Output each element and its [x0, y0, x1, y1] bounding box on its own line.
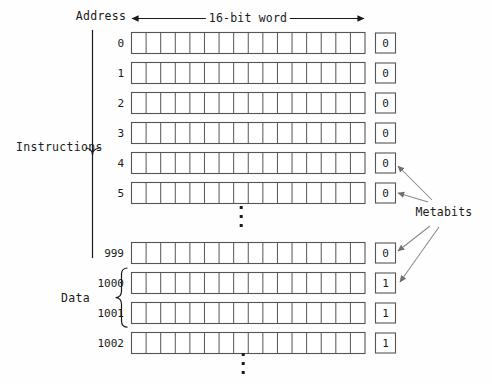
ellipsis-dot [242, 362, 245, 365]
instructions-group-label: Instructions [16, 142, 103, 154]
address-header-label: Address [76, 11, 127, 23]
address-label: 0 [78, 38, 124, 49]
metabit-value: 0 [376, 98, 396, 109]
metabit-value: 0 [376, 68, 396, 79]
metabits-label: Metabits [416, 207, 473, 219]
memory-word-row [132, 63, 396, 84]
address-label: 1002 [78, 338, 124, 349]
instructions-gap-ellipsis [240, 206, 243, 233]
word-width-label: 16-bit word [206, 13, 290, 25]
metabits-callout-arrows [398, 166, 439, 282]
ellipsis-dot [240, 224, 243, 227]
memory-word-row [132, 303, 396, 324]
address-label: 1001 [78, 308, 124, 319]
metabits-arrow-to-row-1000 [400, 227, 439, 282]
address-label: 999 [78, 248, 124, 259]
address-label: 1000 [78, 278, 124, 289]
memory-layout-diagram: 16-bit word Address Instructions Data Me… [0, 0, 492, 384]
address-label: 1 [78, 68, 124, 79]
metabit-value: 0 [376, 248, 396, 259]
metabit-value: 1 [376, 308, 396, 319]
metabit-value: 0 [376, 38, 396, 49]
address-label: 5 [78, 188, 124, 199]
memory-word-row [132, 123, 396, 144]
data-group-label: Data [61, 293, 90, 305]
memory-word-row [132, 153, 396, 174]
below-data-ellipsis [242, 353, 245, 380]
metabit-value: 1 [376, 278, 396, 289]
metabit-value: 0 [376, 128, 396, 139]
address-label: 2 [78, 98, 124, 109]
diagram-vector-layer [0, 0, 492, 384]
metabits-arrow-to-row-5 [398, 193, 428, 202]
memory-word-row [132, 273, 396, 294]
metabit-value: 0 [376, 188, 396, 199]
address-label: 4 [78, 158, 124, 169]
memory-word-row [132, 333, 396, 354]
memory-word-row [132, 93, 396, 114]
address-label: 3 [78, 128, 124, 139]
memory-rows-layer [132, 33, 396, 354]
memory-word-row [132, 183, 396, 204]
ellipsis-dot [240, 215, 243, 218]
ellipsis-dot [242, 353, 245, 356]
ellipsis-dot [240, 206, 243, 209]
ellipsis-dot [242, 371, 245, 374]
metabit-value: 0 [376, 158, 396, 169]
memory-word-row [132, 33, 396, 54]
memory-word-row [132, 243, 396, 264]
metabit-value: 1 [376, 338, 396, 349]
